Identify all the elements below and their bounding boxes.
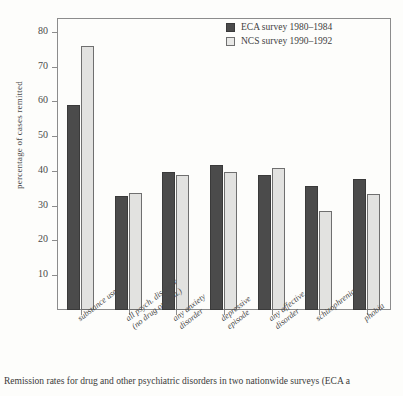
figure-container: percentage of cases remitted 10203040506… [0, 0, 403, 396]
legend-item[interactable]: ECA survey 1980–1984 [226, 22, 332, 32]
y-axis-tick-label: 80 [38, 25, 48, 36]
y-axis-tick-label: 10 [38, 268, 48, 279]
bar-ncs[interactable] [81, 46, 94, 310]
bar-ncs[interactable] [367, 194, 380, 310]
y-axis-tick-label: 30 [38, 199, 48, 210]
bar-eca[interactable] [210, 165, 223, 310]
bar-group [115, 18, 143, 310]
legend-swatch-eca [226, 23, 235, 32]
bar-group [210, 18, 238, 310]
legend-item[interactable]: NCS survey 1990–1992 [226, 36, 332, 46]
bar-group [67, 18, 95, 310]
bar-series-layer [57, 18, 391, 310]
bar-eca[interactable] [67, 105, 80, 310]
chart-legend: ECA survey 1980–1984NCS survey 1990–1992 [226, 22, 332, 50]
bar-eca[interactable] [305, 186, 318, 310]
bar-ncs[interactable] [224, 172, 237, 310]
y-axis-tick-label: 70 [38, 60, 48, 71]
bar-group [258, 18, 286, 310]
y-axis-tick-label: 60 [38, 94, 48, 105]
bar-eca[interactable] [258, 175, 271, 310]
legend-swatch-ncs [226, 37, 235, 46]
figure-caption: Remission rates for drug and other psych… [4, 376, 403, 386]
legend-label: NCS survey 1990–1992 [241, 36, 332, 46]
legend-label: ECA survey 1980–1984 [241, 22, 332, 32]
y-axis-tick-label: 40 [38, 164, 48, 175]
bar-group [162, 18, 190, 310]
y-axis-title: percentage of cases remitted [14, 50, 24, 220]
y-axis-tick-label: 20 [38, 233, 48, 244]
bar-group [305, 18, 333, 310]
bar-ncs[interactable] [272, 168, 285, 310]
y-axis-tick-label: 50 [38, 129, 48, 140]
bar-eca[interactable] [353, 179, 366, 310]
bar-ncs[interactable] [129, 193, 142, 310]
bar-ncs[interactable] [319, 211, 332, 310]
bar-group [353, 18, 381, 310]
